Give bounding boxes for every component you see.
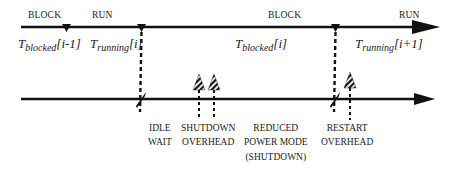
shutdown-overhead-arrows	[193, 74, 220, 120]
state-label-run-1: RUN	[92, 10, 113, 20]
interval-label-running-current: Trunning[i]	[90, 36, 143, 53]
phase-caption-idle-wait: IDLE WAIT	[148, 122, 172, 149]
state-label-block-2: BLOCK	[268, 10, 301, 20]
interval-label-blocked-prev: Tblocked[i-1]	[18, 36, 81, 53]
phase-caption-reduced-power-mode: REDUCED POWER MODE (SHUTDOWN)	[244, 122, 308, 165]
bottom-timeline-axis	[21, 93, 435, 105]
phase-caption-restart-overhead: RESTART OVERHEAD	[321, 122, 373, 149]
restart-overhead-arrow	[344, 72, 356, 120]
interval-label-running-next: Trunning[i+1]	[355, 36, 423, 53]
interval-label-blocked-current: Tblocked[i]	[235, 36, 287, 53]
top-timeline-axis	[21, 20, 440, 34]
state-label-block-1: BLOCK	[28, 10, 61, 20]
phase-caption-shutdown-overhead: SHUTDOWN OVERHEAD	[181, 122, 235, 149]
state-label-run-2: RUN	[399, 10, 420, 20]
